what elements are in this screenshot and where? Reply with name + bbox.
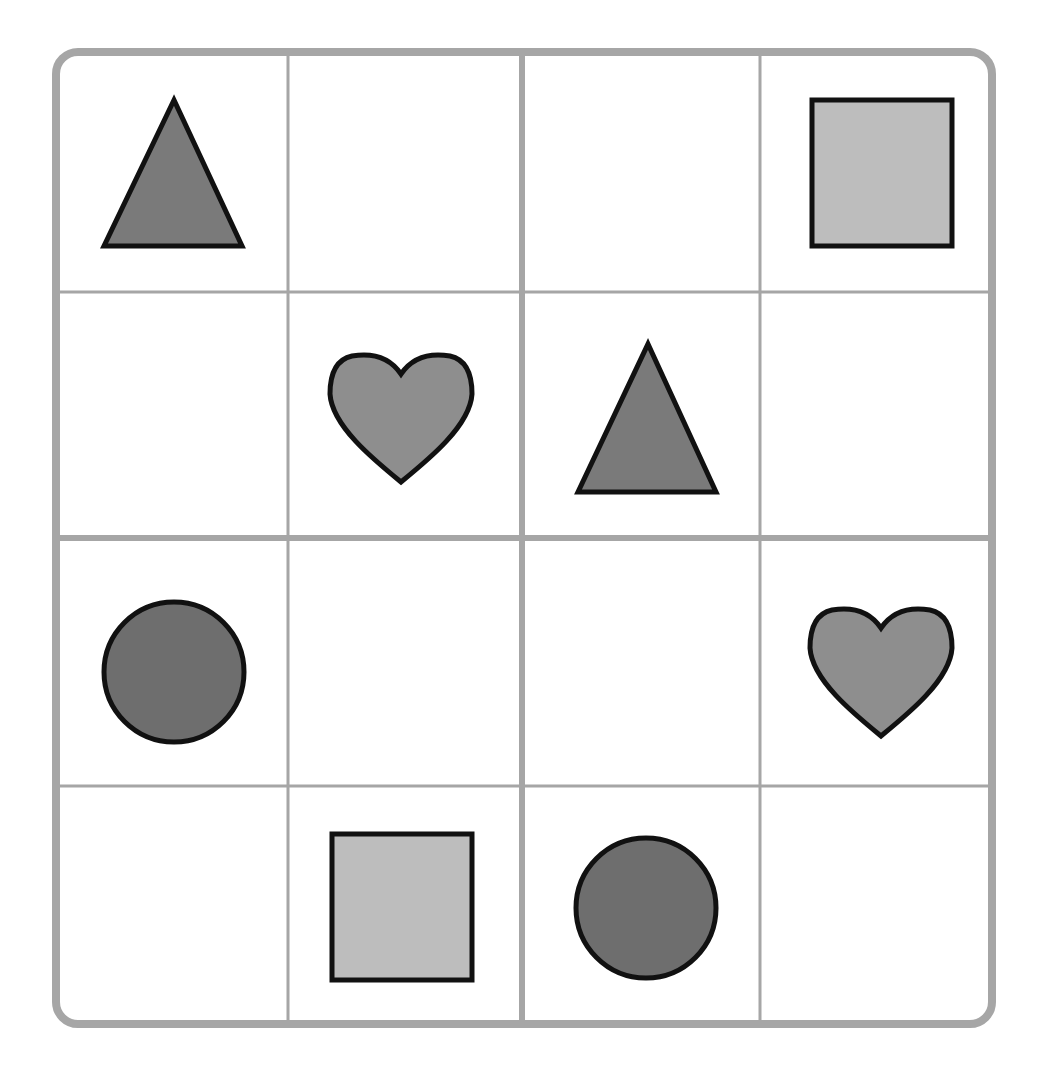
circle-icon xyxy=(576,838,716,978)
cell-r0c1[interactable] xyxy=(292,56,518,288)
cell-r3c0[interactable] xyxy=(60,790,284,1020)
cell-r0c2[interactable] xyxy=(526,56,756,288)
cell-r3c3[interactable] xyxy=(764,790,988,1020)
cell-r1c3[interactable] xyxy=(764,296,988,534)
puzzle-board xyxy=(52,48,996,1028)
cell-r2c0[interactable] xyxy=(104,602,244,742)
square-icon xyxy=(812,100,952,246)
puzzle-grid xyxy=(52,48,996,1028)
cell-r2c2[interactable] xyxy=(526,542,756,782)
cell-r1c0[interactable] xyxy=(60,296,284,534)
cell-r3c1[interactable] xyxy=(332,834,472,980)
cell-r3c2[interactable] xyxy=(576,838,716,978)
circle-icon xyxy=(104,602,244,742)
cell-r2c1[interactable] xyxy=(292,542,518,782)
cell-r0c3[interactable] xyxy=(812,100,952,246)
square-icon xyxy=(332,834,472,980)
